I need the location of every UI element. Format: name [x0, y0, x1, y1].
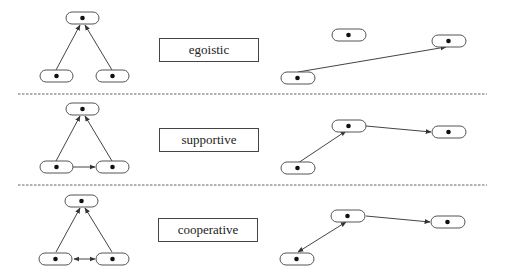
node [432, 126, 466, 138]
edge [366, 126, 431, 132]
edge [56, 25, 80, 70]
edge [366, 216, 430, 222]
row-egoistic-triangle [40, 12, 129, 82]
edge [56, 116, 80, 161]
edge [85, 208, 112, 252]
row-supportive-triangle [40, 103, 129, 173]
node [39, 253, 72, 265]
label-cooperative: cooperative [158, 218, 258, 242]
edge [298, 222, 346, 252]
row-egoistic-network [281, 29, 466, 84]
label-egoistic: egoistic [159, 38, 259, 62]
row-cooperative-triangle [39, 195, 129, 265]
edge [298, 131, 346, 163]
edge [298, 47, 446, 72]
row-cooperative-network [280, 210, 465, 265]
edge [85, 116, 112, 161]
node [96, 70, 129, 82]
node [96, 253, 129, 265]
label-supportive: supportive [159, 128, 259, 152]
node [96, 161, 129, 173]
node [65, 195, 98, 207]
node [331, 210, 365, 222]
node [66, 12, 99, 24]
node [332, 120, 366, 132]
node [281, 162, 315, 174]
edge [56, 208, 80, 252]
node [431, 216, 465, 228]
edge [85, 25, 112, 70]
node [66, 103, 99, 115]
node [40, 161, 73, 173]
node [281, 72, 315, 84]
row-supportive-network [281, 120, 466, 174]
node [280, 253, 314, 265]
node [40, 70, 73, 82]
node [432, 35, 466, 47]
node [332, 29, 366, 41]
